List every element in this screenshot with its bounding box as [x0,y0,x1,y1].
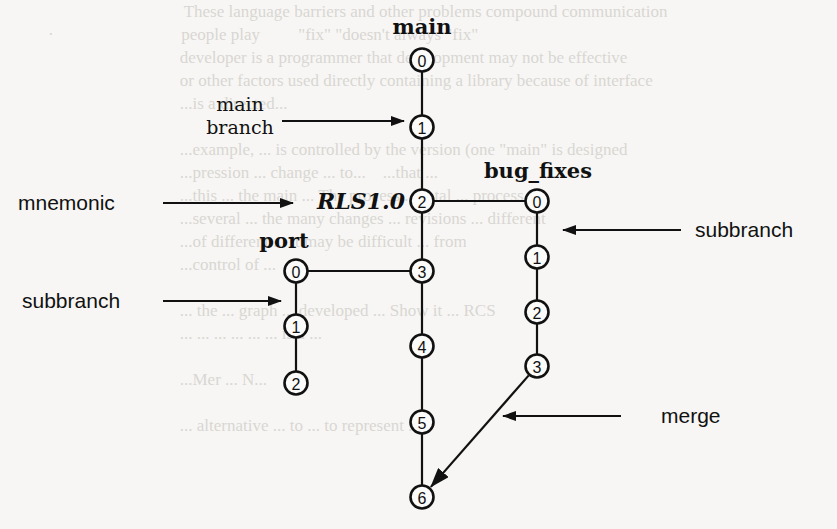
revision-node-bug_fixes-0[interactable]: 0 [526,190,549,213]
revision-number: 3 [533,359,542,376]
revision-node-main-4[interactable]: 4 [411,335,434,358]
revision-number: 2 [292,376,301,393]
merge-annotation: merge [661,404,721,427]
branch-label-bug-fixes: bug_fixes [484,158,592,183]
annotation-labels: main branch mnemonic subbranch subbranch… [18,93,793,427]
revision-number: 5 [418,415,427,432]
revision-number: 1 [292,319,301,336]
branch-label-port: port [259,228,309,253]
revision-number: 1 [418,120,427,137]
revision-node-bug_fixes-2[interactable]: 2 [526,301,549,324]
revision-node-port-1[interactable]: 1 [285,315,308,338]
revision-node-main-2[interactable]: 2 [411,190,434,213]
revision-node-port-0[interactable]: 0 [285,260,308,283]
revision-node-port-2[interactable]: 2 [285,372,308,395]
revision-number: 3 [418,264,427,281]
mnemonic-annotation: mnemonic [18,191,115,214]
main-branch-annotation-line2: branch [206,116,274,138]
revision-node-main-5[interactable]: 5 [411,411,434,434]
revision-tree-diagram: main branch mnemonic subbranch subbranch… [0,0,837,529]
revision-node-main-1[interactable]: 1 [411,116,434,139]
revision-node-main-6[interactable]: 6 [411,486,434,509]
revision-number: 6 [418,490,427,507]
revision-number: 2 [418,194,427,211]
revision-number: 1 [533,250,542,267]
revision-number: 0 [292,264,301,281]
main-branch-annotation-line1: main [216,93,264,115]
subbranch-right-annotation: subbranch [695,218,793,241]
revision-number: 0 [533,194,542,211]
revision-number: 0 [418,53,427,70]
revision-number: 4 [418,339,427,356]
merge-arrow [431,375,529,486]
revision-node-bug_fixes-3[interactable]: 3 [526,355,549,378]
revision-node-main-3[interactable]: 3 [411,260,434,283]
revision-number: 2 [533,305,542,322]
revision-node-bug_fixes-1[interactable]: 1 [526,246,549,269]
branch-label-main: main [392,14,451,39]
revision-nodes: 01234560123012 [285,49,549,509]
revision-node-main-0[interactable]: 0 [411,49,434,72]
mnemonic-label-rls: RLS1.0 [316,188,406,214]
subbranch-left-annotation: subbranch [22,289,120,312]
